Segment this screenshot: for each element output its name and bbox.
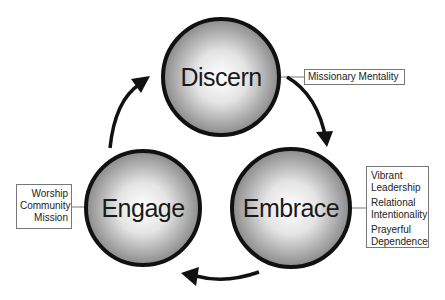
annotation-line: Community — [20, 200, 68, 212]
arrow-embrace-to-engage — [196, 272, 259, 279]
annotation-line: Relational — [371, 197, 424, 209]
embrace-annotation: Vibrant Leadership Relational Intentiona… — [366, 166, 429, 248]
annotation-line: Leadership — [371, 182, 424, 194]
engage-label: Engage — [101, 194, 184, 223]
annotation-line: Worship — [20, 188, 68, 200]
cycle-diagram — [0, 0, 445, 300]
arrowhead-icon — [181, 267, 199, 286]
discern-annotation: Missionary Mentality — [304, 69, 405, 85]
arrow-discern-to-embrace — [287, 77, 326, 140]
arrowhead-icon — [316, 131, 333, 147]
discern-label: Discern — [180, 63, 261, 92]
annotation-line: Vibrant — [371, 170, 424, 182]
annotation-line: Mission — [20, 212, 68, 224]
embrace-label: Embrace — [243, 194, 340, 223]
annotation-line: Prayerful — [371, 224, 424, 236]
arrow-engage-to-discern — [110, 84, 140, 148]
engage-annotation: Worship Community Mission — [16, 184, 72, 229]
annotation-line: Missionary Mentality — [308, 71, 399, 82]
annotation-line: Intentionality — [371, 209, 424, 221]
annotation-line: Dependence — [371, 236, 424, 248]
